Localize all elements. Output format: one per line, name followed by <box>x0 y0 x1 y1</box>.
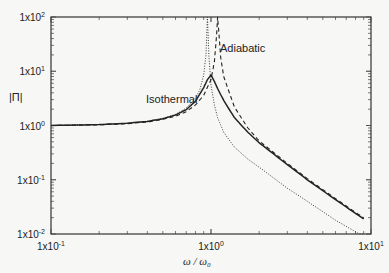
x-tick-label: 1x100 <box>198 240 224 252</box>
y-tick-label: 1x100 <box>19 120 45 132</box>
series-dashed-line <box>51 17 364 218</box>
y-tick-label: 1x10-1 <box>17 174 45 186</box>
y-tick-labels: 1x1021x1011x1001x10-11x10-2 <box>17 11 45 240</box>
series-dotted-line <box>51 17 364 234</box>
annotation-isothermal: Isothermal <box>146 93 197 105</box>
y-tick-label: 1x101 <box>19 65 45 77</box>
y-tick-label: 1x10-2 <box>17 228 45 240</box>
series-solid-line <box>51 75 364 219</box>
plot-frame <box>51 17 371 234</box>
series-lines <box>51 17 364 234</box>
x-tick-label: 1x101 <box>358 240 384 252</box>
x-tick-label: 1x10-1 <box>37 240 65 252</box>
y-axis-label: |Π| <box>9 91 23 103</box>
y-tick-label: 1x102 <box>19 11 45 23</box>
annotation-adiabatic: Adiabatic <box>220 42 266 54</box>
x-axis-label: ω / ω₀ <box>183 255 211 267</box>
x-tick-labels: 1x10-11x1001x101 <box>37 240 384 252</box>
axis-ticks <box>51 17 371 234</box>
chart: 1x1021x1011x1001x10-11x10-2 1x10-11x1001… <box>0 0 389 273</box>
